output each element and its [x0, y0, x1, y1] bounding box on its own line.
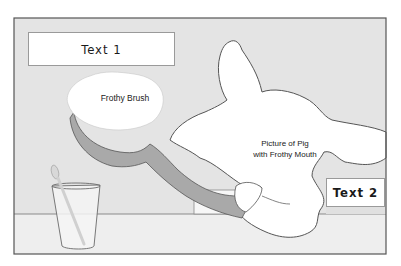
pig-annotation-line1: Picture of Pig: [240, 138, 330, 149]
text-box-2: Text 2: [326, 178, 385, 207]
pig-annotation: Picture of Pig with Frothy Mouth: [240, 138, 330, 160]
text-box-1: Text 1: [28, 32, 175, 66]
pig-annotation-line2: with Frothy Mouth: [240, 149, 330, 160]
brush-annotation: Frothy Brush: [92, 93, 158, 103]
text-box-2-label: Text 2: [333, 185, 379, 200]
text-box-1-label: Text 1: [81, 42, 122, 57]
